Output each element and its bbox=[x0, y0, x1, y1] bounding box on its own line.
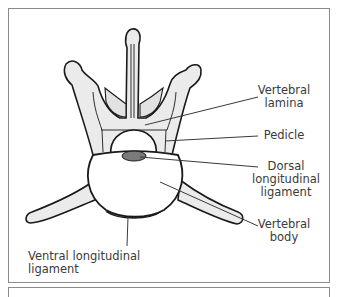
label-vertebral-body: Vertebral body bbox=[256, 218, 312, 244]
label-dorsal-ligament: Dorsal longitudinal ligament bbox=[252, 160, 320, 199]
label-vertebral-lamina: Vertebral lamina bbox=[256, 84, 312, 110]
left-transverse-process bbox=[26, 180, 95, 223]
right-transverse-process bbox=[178, 180, 243, 224]
label-ventral-ligament: Ventral longitudinal ligament bbox=[28, 250, 178, 276]
label-pedicle: Pedicle bbox=[258, 129, 310, 142]
dorsal-ligament bbox=[122, 151, 146, 161]
